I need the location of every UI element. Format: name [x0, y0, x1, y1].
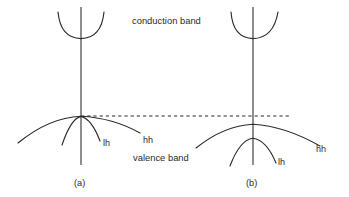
conduction-band-label: conduction band: [132, 15, 201, 26]
panel-a-heavy-hole-curve: [18, 116, 140, 143]
panel-b-group: hh lh (b): [196, 7, 326, 188]
valence-band-label: valence band: [133, 152, 189, 163]
panel-b-conduction-band-curve: [231, 12, 278, 39]
panel-b-caption: (b): [246, 178, 257, 188]
panel-a-light-hole-label: lh: [103, 138, 110, 148]
panel-b-light-hole-label: lh: [278, 157, 285, 167]
panel-b-heavy-hole-curve: [196, 124, 320, 148]
band-structure-figure: lh hh (a) hh lh (b) conduction band vale…: [0, 0, 349, 197]
panel-a-caption: (a): [74, 178, 85, 188]
band-diagram-canvas: lh hh (a) hh lh (b) conduction band vale…: [0, 0, 349, 197]
panel-b-heavy-hole-label: hh: [316, 144, 326, 154]
panel-a-heavy-hole-label: hh: [143, 135, 153, 145]
